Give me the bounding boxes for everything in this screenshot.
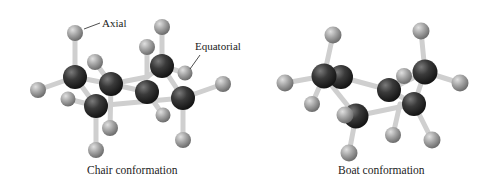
chair-hydrogens [30, 19, 231, 136]
hydrogen-atom [139, 39, 155, 55]
hydrogen-atom [154, 19, 170, 35]
hydrogen-atom [424, 132, 441, 149]
carbon-atom [84, 94, 108, 118]
carbon-atom [150, 54, 174, 78]
hydrogen-atom [413, 23, 430, 40]
hydrogen-atom [102, 120, 118, 136]
hydrogen-atom [87, 54, 103, 70]
boat-hydrogens [277, 23, 469, 113]
carbon-atom [377, 78, 401, 102]
equatorial-leader-line [190, 55, 200, 69]
hydrogen-atom [325, 27, 342, 44]
hydrogen-atom [385, 127, 401, 143]
hydrogen-atom-axial [67, 25, 83, 41]
carbon-atom [413, 60, 438, 85]
carbon-atom [135, 80, 159, 104]
equatorial-label: Equatorial [195, 40, 241, 52]
axial-leader-line [84, 23, 100, 29]
chair-caption: Chair conformation [87, 164, 178, 176]
hydrogen-atom [88, 142, 104, 158]
hydrogen-atom [30, 82, 46, 98]
boat-conformation-model: Boat conformation [277, 23, 469, 177]
hydrogen-atom [175, 132, 191, 148]
hydrogen-atom [61, 92, 76, 107]
axial-label: Axial [102, 17, 126, 29]
hydrogen-atom [341, 145, 358, 162]
hydrogen-atom [277, 75, 294, 92]
carbon-atom [312, 64, 337, 89]
hydrogen-atom [396, 68, 412, 84]
cyclohexane-conformations-diagram: Axial Equatorial Chair conformation [0, 0, 493, 187]
hydrogen-atom-equatorial [178, 66, 193, 81]
carbon-atom [99, 72, 123, 96]
hydrogen-atom [337, 107, 354, 124]
hydrogen-atom [215, 76, 231, 92]
hydrogen-atom [156, 108, 171, 123]
boat-caption: Boat conformation [338, 164, 425, 176]
hydrogen-atom [452, 75, 469, 92]
hydrogen-atom [304, 96, 320, 112]
carbon-atom [402, 92, 426, 116]
carbon-atom [171, 86, 195, 110]
chair-conformation-model: Axial Equatorial Chair conformation [30, 17, 241, 176]
carbon-atom [63, 65, 87, 89]
